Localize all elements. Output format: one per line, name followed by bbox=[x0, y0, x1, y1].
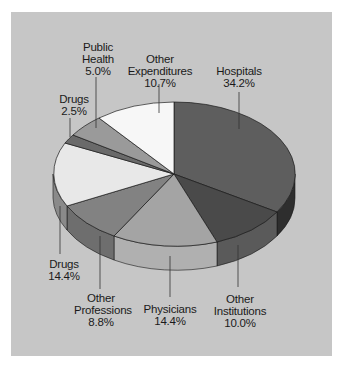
label-other-professions-line2: Professions bbox=[74, 304, 128, 316]
label-other-professions-line1: Other bbox=[74, 292, 128, 304]
label-other-professions: Other Professions 8.8% bbox=[74, 292, 128, 328]
label-drugs-small-name: Drugs bbox=[56, 93, 92, 105]
label-other-expenditures-line1: Other bbox=[125, 53, 195, 65]
label-drugs-large: Drugs 14.4% bbox=[46, 258, 82, 282]
label-drugs-small: Drugs 2.5% bbox=[56, 93, 92, 117]
label-drugs-small-pct: 2.5% bbox=[56, 105, 92, 117]
label-other-expenditures-line2: Expenditures bbox=[125, 65, 195, 77]
label-other-professions-pct: 8.8% bbox=[74, 316, 128, 328]
label-hospitals-name: Hospitals bbox=[213, 65, 265, 77]
label-other-institutions-line1: Other bbox=[212, 293, 268, 305]
label-other-institutions-pct: 10.0% bbox=[212, 317, 268, 329]
label-physicians-name: Physicians bbox=[142, 303, 198, 315]
label-drugs-large-pct: 14.4% bbox=[46, 270, 82, 282]
label-drugs-large-name: Drugs bbox=[46, 258, 82, 270]
label-physicians-pct: 14.4% bbox=[142, 315, 198, 327]
label-hospitals-pct: 34.2% bbox=[213, 77, 265, 89]
label-public-health-line2: Health bbox=[78, 53, 118, 65]
label-other-expenditures-pct: 10.7% bbox=[125, 77, 195, 89]
label-other-institutions: Other Institutions 10.0% bbox=[212, 293, 268, 329]
label-hospitals: Hospitals 34.2% bbox=[213, 65, 265, 89]
label-physicians: Physicians 14.4% bbox=[142, 303, 198, 327]
label-other-institutions-line2: Institutions bbox=[212, 305, 268, 317]
label-public-health: Public Health 5.0% bbox=[78, 41, 118, 77]
label-public-health-line1: Public bbox=[78, 41, 118, 53]
label-other-expenditures: Other Expenditures 10.7% bbox=[125, 53, 195, 89]
label-public-health-pct: 5.0% bbox=[78, 65, 118, 77]
